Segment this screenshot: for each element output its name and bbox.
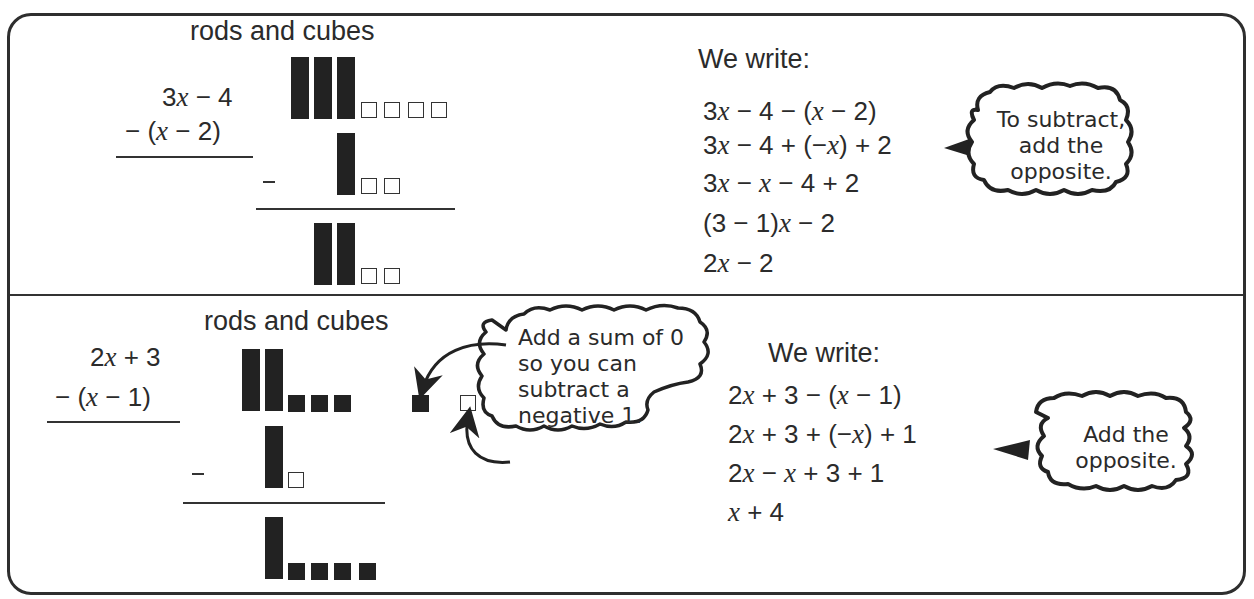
- zero-pair-bubble-text: Add a sum of 0 so you can subtract a neg…: [518, 325, 684, 429]
- callouts-layer: [0, 0, 1254, 599]
- top-bubble-text: To subtract, add the opposite.: [986, 107, 1136, 185]
- bottom-bubble-text: Add the opposite.: [1056, 422, 1196, 474]
